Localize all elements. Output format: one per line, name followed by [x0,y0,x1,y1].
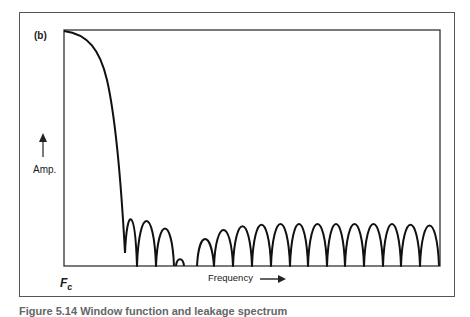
x-axis-label: Frequency [208,272,253,283]
sidelobes-curve [125,219,439,266]
up-arrow-icon [39,133,47,157]
x-origin-label: Fc [60,276,72,292]
plot-area [64,30,440,266]
main-lobe-curve [64,31,125,253]
y-axis-label: Amp. [33,164,56,175]
right-arrow-icon [260,275,286,283]
figure-caption: Figure 5.14 Window function and leakage … [19,305,287,317]
fc-subscript: c [67,282,72,292]
